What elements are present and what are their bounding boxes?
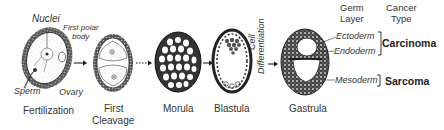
germ-header-line1: Germ xyxy=(340,2,364,13)
cancer-type-sarcoma: Sarcoma xyxy=(385,75,429,87)
first-polar-body-label-line2: body xyxy=(72,32,89,41)
arrow-morula-to-blastula xyxy=(203,61,213,66)
differentiation-label: Differentiation xyxy=(256,18,266,74)
stage-label-first-cleavage-line1: First xyxy=(104,103,123,114)
cancer-header-line1: Cancer xyxy=(386,2,417,13)
germ-header-line2: Layer xyxy=(340,13,364,24)
gastrula-cell xyxy=(281,29,329,95)
stage-label-morula: Morula xyxy=(163,103,194,114)
morula-cell xyxy=(155,32,201,92)
germ-layer-endoderm: Endoderm xyxy=(334,46,376,56)
stage-label-gastrula: Gastrula xyxy=(289,103,327,114)
ovary-label: Ovary xyxy=(59,87,83,97)
blastula-cell xyxy=(213,30,251,92)
arrow-blastula-to-gastrula xyxy=(268,62,278,67)
nuclei-label: Nuclei xyxy=(32,13,60,24)
stage-label-blastula: Blastula xyxy=(214,103,250,114)
stage-label-fertilization: Fertilization xyxy=(23,105,74,116)
arrow-fertilization-to-cleavage xyxy=(74,61,87,66)
sperm-label: Sperm xyxy=(14,86,41,96)
arrow-cleavage-to-morula xyxy=(136,61,152,66)
cancer-header-line2: Type xyxy=(391,13,412,24)
first-cleavage-cell xyxy=(93,34,133,92)
germ-layer-ectoderm: Ectoderm xyxy=(336,31,375,41)
cancer-type-carcinoma: Carcinoma xyxy=(382,37,436,49)
stage-label-first-cleavage-line2: Cleavage xyxy=(92,115,134,126)
first-polar-body-label-line1: First polar xyxy=(63,23,99,32)
germ-layer-mesoderm: Mesoderm xyxy=(335,75,378,85)
fertilization-cell xyxy=(15,22,79,95)
